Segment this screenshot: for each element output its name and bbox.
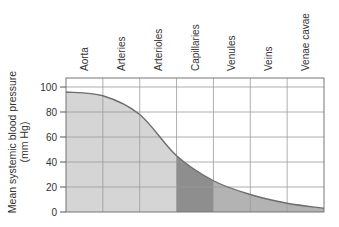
blood-pressure-chart: 020406080100 AortaArteriesArteriolesCapi… (0, 0, 339, 227)
area-fills (66, 78, 324, 212)
y-axis-title: Mean systemic blood pressure(mm Hg) (6, 71, 30, 214)
category-label: Arteries (116, 37, 127, 71)
category-label: Veins (263, 47, 274, 71)
y-tick-label: 20 (46, 182, 58, 193)
y-tick-label: 100 (40, 82, 57, 93)
region-fill (177, 78, 214, 212)
y-axis-title-line: (mm Hg) (18, 122, 30, 163)
y-tick-label: 0 (51, 207, 57, 218)
category-label: Arterioles (153, 29, 164, 71)
y-tick-label: 40 (46, 157, 58, 168)
category-labels: AortaArteriesArteriolesCapillariesVenule… (79, 13, 311, 71)
y-tick-label: 80 (46, 107, 58, 118)
category-label: Venules (226, 35, 237, 71)
category-label: Aorta (79, 47, 90, 71)
y-axis-title-line: Mean systemic blood pressure (6, 71, 18, 214)
region-fill (66, 78, 177, 212)
category-label: Capillaries (190, 24, 201, 71)
region-fill (213, 78, 324, 212)
y-axis-ticks: 020406080100 (40, 82, 66, 218)
y-tick-label: 60 (46, 132, 58, 143)
category-label: Venae cavae (300, 13, 311, 71)
